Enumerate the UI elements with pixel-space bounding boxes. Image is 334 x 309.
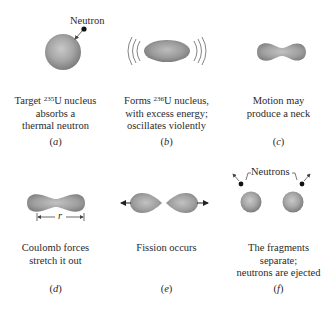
- panel-a-label: (a): [0, 136, 111, 147]
- panel-b-label: (b): [111, 136, 222, 147]
- panel-e-label: (e): [111, 283, 222, 294]
- panel-c-label: (c): [223, 136, 334, 147]
- panel-d-caption: Coulomb forces stretch it out: [0, 242, 111, 267]
- stretched-nucleus: [27, 194, 85, 211]
- panel-f-graphic: [233, 173, 310, 213]
- fragment-right: [166, 193, 198, 213]
- neutron-path-arrow: [75, 30, 83, 39]
- panel-d-label: (d): [0, 283, 111, 294]
- oscillation-lines-left: [128, 37, 140, 65]
- panel-e-graphic: [121, 193, 208, 213]
- panel-c-graphic: [257, 43, 306, 60]
- neutron-arrow-right: [304, 174, 310, 181]
- panel-d-graphic: [27, 194, 85, 221]
- fragment-sphere-left: [241, 192, 262, 213]
- u236-nucleus: [144, 40, 190, 62]
- u235-nucleus: [45, 34, 81, 70]
- panel-a-caption: Target 235U nucleus absorbs a thermal ne…: [0, 95, 111, 133]
- panel-a-graphic: [45, 26, 87, 70]
- r-dimension-label: r: [58, 210, 62, 221]
- panel-b-graphic: [128, 37, 206, 65]
- panel-b-caption: Forms 236U nucleus, with excess energy; …: [111, 95, 222, 133]
- panel-e-caption: Fission occurs: [111, 242, 222, 255]
- ejected-neutron-right: [300, 182, 305, 187]
- fragment-left: [130, 193, 162, 213]
- oscillation-lines-right: [194, 37, 206, 65]
- neutrons-annotation: Neutrons: [251, 166, 290, 177]
- necked-nucleus: [257, 43, 306, 60]
- ejected-neutron-left: [239, 182, 244, 187]
- isotope-mass-number: 235: [44, 95, 55, 103]
- fragment-sphere-right: [283, 192, 304, 213]
- neutron-arrow-left: [233, 174, 239, 181]
- panel-f-caption: The fragments separate; neutrons are eje…: [223, 242, 334, 280]
- panel-c-caption: Motion may produce a neck: [223, 95, 334, 120]
- neutrons-bracket-right: [292, 173, 297, 180]
- panel-f-label: (f): [223, 283, 334, 294]
- isotope-mass-number: 236: [154, 95, 165, 103]
- neutron-annotation: Neutron: [70, 15, 104, 26]
- neutron-dot: [81, 26, 86, 31]
